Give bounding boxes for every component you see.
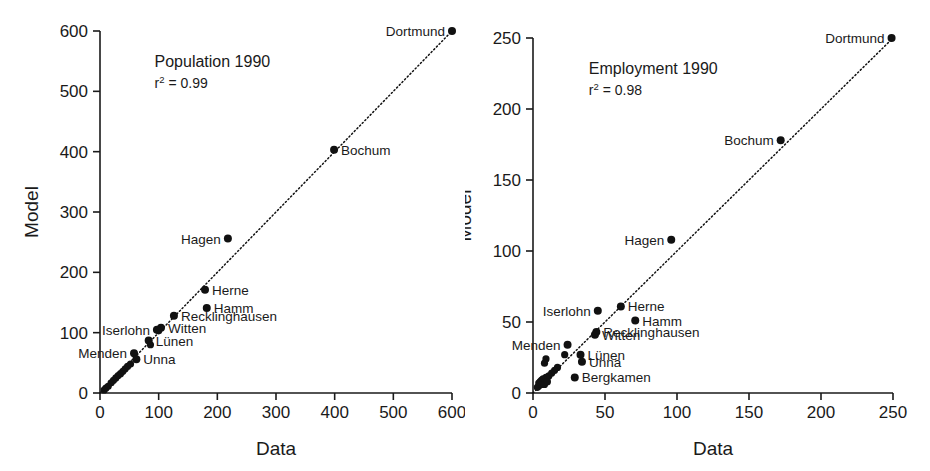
data-point: [561, 351, 568, 358]
r-squared-annotation: r2 = 0.98: [589, 81, 642, 98]
data-point-label: Iserlohn: [102, 323, 150, 338]
x-axis-tick-label: 150: [735, 403, 763, 422]
y-axis-title: Model: [21, 186, 42, 238]
data-point-marker: [571, 373, 579, 381]
y-axis-tick-label: 100: [60, 324, 88, 343]
y-axis-tick-label: 600: [60, 22, 88, 41]
data-point-label: Bochum: [341, 143, 391, 158]
data-point: [544, 378, 551, 385]
r-squared-annotation: r2 = 0.99: [155, 74, 208, 91]
data-point-labeled: Bochum: [724, 133, 785, 148]
data-point-marker: [631, 317, 639, 325]
x-axis-tick-label: 100: [663, 403, 691, 422]
data-point-marker: [591, 331, 599, 339]
panel-title: Employment 1990: [589, 60, 718, 77]
chart-panel-population: 01002003004005006000100200300400500600Da…: [0, 0, 465, 471]
data-point-labeled: Menden: [512, 338, 572, 353]
data-point-marker: [101, 386, 108, 393]
data-point: [541, 360, 548, 367]
x-axis-tick-label: 100: [144, 403, 172, 422]
data-point-labeled: Herne: [201, 283, 249, 298]
data-point-marker: [541, 360, 548, 367]
x-axis-tick-label: 400: [320, 403, 348, 422]
x-axis-tick-label: 600: [438, 403, 465, 422]
data-point-labeled: Dortmund: [386, 24, 456, 39]
data-point-marker: [617, 302, 625, 310]
data-point: [147, 341, 154, 348]
data-point-label: Iserlohn: [543, 304, 591, 319]
data-point-marker: [147, 341, 154, 348]
x-axis-tick-label: 0: [95, 403, 104, 422]
data-point-marker: [594, 307, 602, 315]
data-point-marker: [564, 341, 572, 349]
data-point-marker: [224, 235, 232, 243]
y-axis-tick-label: 100: [493, 242, 521, 261]
figure-canvas: 01002003004005006000100200300400500600Da…: [0, 0, 930, 471]
data-point-label: Unna: [143, 352, 176, 367]
data-point: [155, 327, 162, 334]
chart-panel-employment: 050100150200250050100150200250DataModelE…: [465, 0, 930, 471]
data-point-labeled: Hagen: [624, 233, 675, 248]
r-squared-value: = 0.98: [599, 82, 642, 98]
y-axis-tick-label: 0: [512, 384, 521, 403]
data-point-marker: [777, 136, 785, 144]
data-point-marker: [578, 358, 586, 366]
x-axis-tick-label: 0: [528, 403, 537, 422]
x-axis-tick-label: 500: [379, 403, 407, 422]
data-point-labeled: Herne: [617, 299, 665, 314]
x-axis-title: Data: [693, 438, 734, 459]
data-point-marker: [577, 351, 585, 359]
x-axis-tick-label: 200: [203, 403, 231, 422]
y-axis-tick-label: 300: [60, 203, 88, 222]
data-point-label: Unna: [589, 355, 622, 370]
data-point-label: Herne: [628, 299, 665, 314]
data-point-label: Menden: [78, 346, 127, 361]
data-point-label: Dortmund: [386, 24, 445, 39]
y-axis-title: Model: [465, 190, 475, 242]
data-point-label: Menden: [512, 338, 561, 353]
data-point-marker: [667, 236, 675, 244]
data-point-label: Herne: [212, 283, 249, 298]
scatter-plot-population: 01002003004005006000100200300400500600Da…: [0, 0, 465, 471]
data-point-marker: [201, 286, 209, 294]
y-axis-tick-label: 500: [60, 82, 88, 101]
data-point-marker: [132, 355, 140, 363]
data-point-label: Witten: [602, 328, 640, 343]
x-axis-tick-label: 200: [807, 403, 835, 422]
data-point-labeled: Unna: [578, 355, 622, 370]
regression-line: [533, 38, 893, 393]
data-point-label: Dortmund: [825, 31, 884, 46]
data-point-labeled: Iserlohn: [102, 323, 161, 338]
data-point-labeled: Iserlohn: [543, 304, 602, 319]
scatter-plot-employment: 050100150200250050100150200250DataModelE…: [465, 0, 930, 471]
data-point-marker: [561, 351, 568, 358]
data-point-labeled: Unna: [132, 352, 176, 367]
data-point-marker: [448, 27, 456, 35]
y-axis-tick-label: 0: [79, 384, 88, 403]
y-axis-tick-label: 200: [60, 263, 88, 282]
regression-line: [100, 31, 452, 393]
data-point-labeled: Bergkamen: [571, 370, 651, 385]
y-axis-tick-label: 50: [502, 313, 521, 332]
data-point-marker: [170, 312, 178, 320]
data-point-label: Lünen: [156, 334, 194, 349]
y-axis-tick-label: 200: [493, 100, 521, 119]
y-axis-tick-label: 250: [493, 29, 521, 48]
data-point-marker: [544, 378, 551, 385]
data-point-label: Hagen: [624, 233, 664, 248]
data-point-marker: [888, 34, 896, 42]
y-axis-tick-label: 150: [493, 171, 521, 190]
data-point-labeled: Bochum: [330, 143, 391, 158]
r-squared-value: = 0.99: [165, 75, 208, 91]
x-axis-tick-label: 300: [262, 403, 290, 422]
data-point-marker: [330, 146, 338, 154]
x-axis-tick-label: 250: [879, 403, 907, 422]
data-point-labeled: Dortmund: [825, 31, 895, 46]
data-point-label: Bochum: [724, 133, 774, 148]
data-point: [101, 386, 108, 393]
y-axis-tick-label: 400: [60, 143, 88, 162]
x-axis-tick-label: 50: [596, 403, 615, 422]
data-point-labeled: Menden: [78, 346, 138, 361]
data-point-label: Bergkamen: [582, 370, 651, 385]
data-point-marker: [155, 327, 162, 334]
